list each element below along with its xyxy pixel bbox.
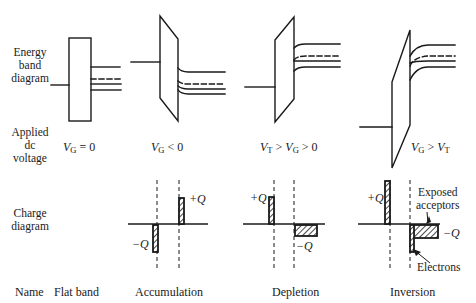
label-line: band (0, 59, 60, 72)
accumulation-plus-q: +Q (189, 192, 206, 207)
electrons-bar (410, 225, 414, 252)
valence-band (410, 67, 455, 80)
voltage-relation: > (424, 140, 437, 154)
depletion-minus-q: −Q (296, 239, 313, 254)
label-line: Applied (0, 126, 60, 139)
label-line: Charge (0, 207, 60, 220)
oxide-trapezoid (160, 16, 178, 121)
voltage-subscript: T (445, 145, 450, 155)
label-line: dc (0, 139, 60, 152)
voltage-symbol: V (285, 140, 292, 154)
depletion-energy-diagram (245, 17, 340, 122)
label-line: diagram (0, 72, 60, 85)
electrons-annotation: Electrons (417, 261, 460, 274)
fermi-level (410, 61, 455, 63)
row-label-energy-band: Energy band diagram (0, 46, 60, 85)
label-line: voltage (0, 152, 60, 165)
oxide-trapezoid (392, 30, 410, 168)
intrinsic-level (294, 56, 340, 60)
label-line: acceptors (416, 199, 459, 212)
row-label-charge-diagram: Charge diagram (0, 207, 60, 233)
voltage-inversion: VG > VT (411, 140, 450, 155)
conduction-band (410, 45, 455, 56)
voltage-relation: = 0 (76, 140, 95, 154)
positive-charge-bar (179, 198, 184, 224)
conduction-band (294, 44, 340, 48)
acceptors-arrowhead (426, 216, 431, 224)
fermi-level (178, 86, 225, 89)
column-name-flat-band: Flat band (54, 285, 99, 300)
voltage-relation: > 0 (299, 140, 318, 154)
voltage-depletion: VT > VG > 0 (260, 140, 318, 155)
voltage-relation: > (273, 140, 286, 154)
accumulation-minus-q: −Q (132, 237, 149, 252)
conduction-band (178, 68, 225, 72)
flat-band-energy-diagram (51, 38, 122, 121)
oxide-box (69, 38, 91, 121)
voltage-flat-band: VG = 0 (63, 140, 95, 155)
positive-charge-bar (385, 181, 390, 224)
valence-band (178, 90, 225, 94)
row-label-applied-voltage: Applied dc voltage (0, 126, 60, 165)
inversion-minus-q: −Q (443, 226, 460, 241)
column-name-inversion: Inversion (390, 285, 435, 300)
exposed-acceptors-annotation: Exposed acceptors (416, 186, 459, 212)
exposed-acceptors-block (412, 225, 438, 238)
voltage-accumulation: VG < 0 (151, 140, 183, 155)
voltage-symbol: V (437, 140, 444, 154)
column-name-depletion: Depletion (272, 285, 319, 300)
valence-band (294, 67, 340, 71)
row-label-name: Name (15, 285, 44, 300)
positive-charge-bar (269, 197, 274, 224)
depletion-plus-q: +Q (250, 191, 267, 206)
oxide-trapezoid (275, 17, 294, 122)
accumulation-energy-diagram (131, 16, 225, 121)
intrinsic-level (178, 81, 225, 84)
voltage-relation: < 0 (164, 140, 183, 154)
label-line: Energy (0, 46, 60, 59)
negative-charge-bar (153, 225, 158, 252)
depletion-charge-block (295, 225, 317, 236)
column-name-accumulation: Accumulation (135, 285, 203, 300)
label-line: diagram (0, 220, 60, 233)
label-line: Exposed (416, 186, 459, 199)
inversion-plus-q: +Q (367, 191, 384, 206)
